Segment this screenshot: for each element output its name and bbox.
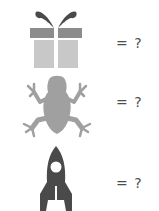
frog-row: = ? (0, 72, 159, 142)
unknown-value-label: = ? (116, 94, 143, 110)
gift-row: = ? (0, 0, 159, 72)
rocket-icon (36, 146, 76, 211)
gift-icon (28, 6, 84, 70)
frog-icon (20, 74, 94, 140)
unknown-value-label: = ? (116, 35, 143, 51)
unknown-value-label: = ? (116, 175, 143, 191)
rocket-row: = ? (0, 142, 159, 211)
